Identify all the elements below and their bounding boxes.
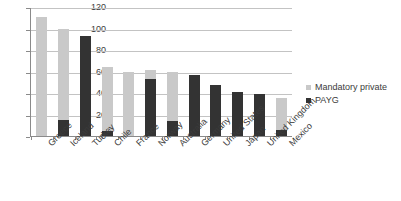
x-axis-tick-label: Norway (156, 141, 163, 148)
x-axis-tick-label: Chile (112, 141, 119, 148)
pension-assets-bar-chart: 020406080100120 GreeceIcelandTurkeyChile… (0, 0, 401, 201)
bar-segment-mandatory-private[interactable] (167, 72, 178, 121)
bar-slot (118, 8, 140, 136)
bar-segment-mandatory-private[interactable] (36, 17, 47, 136)
bar-slot (162, 8, 184, 136)
x-axis-tick-label: Turkey (90, 141, 97, 148)
x-axis-tick-label: Mexico (287, 141, 294, 148)
x-axis-tick-label: Australia (177, 141, 184, 148)
legend-item-label: PAYG (315, 95, 339, 106)
bar-slot (53, 8, 75, 136)
x-axis-labels: GreeceIcelandTurkeyChileFranceNorwayAust… (30, 139, 292, 199)
legend-item-label: Mandatory private (315, 82, 387, 93)
bar-segment-mandatory-private[interactable] (58, 29, 69, 120)
x-axis-tick-label: Greece (46, 141, 53, 148)
x-axis-tick-label: United States (221, 141, 228, 148)
x-axis-tick-label: France (134, 141, 141, 148)
legend-swatch-icon (306, 98, 311, 103)
bar-slot (96, 8, 118, 136)
x-axis-tick-label: Iceland (68, 141, 75, 148)
bar-stack[interactable] (36, 17, 47, 136)
x-axis-tick-label: United Kingdom (265, 141, 272, 148)
x-axis-tick-label: Germany (199, 141, 206, 148)
bar-slot (75, 8, 97, 136)
bar-slot (31, 8, 53, 136)
legend-item[interactable]: PAYG (306, 95, 387, 106)
y-axis-tick-mark (26, 137, 30, 138)
legend-item[interactable]: Mandatory private (306, 82, 387, 93)
x-axis-tick-label: Japan (243, 141, 250, 148)
legend-swatch-icon (306, 85, 311, 90)
bar-segment-mandatory-private[interactable] (145, 70, 156, 79)
chart-legend: Mandatory privatePAYG (306, 82, 387, 108)
bar-segment-mandatory-private[interactable] (102, 67, 113, 130)
bar-slot (140, 8, 162, 136)
